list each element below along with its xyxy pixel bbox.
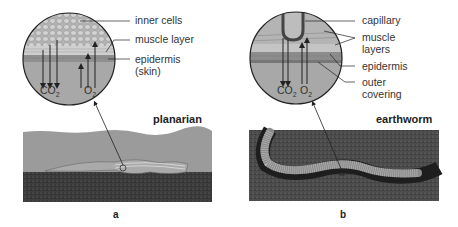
label-o2: O2: [300, 85, 312, 100]
epidermis-layer: [20, 55, 120, 62]
planarian-magnified-view: [20, 10, 130, 110]
label-epidermis: epidermis: [135, 54, 181, 65]
panel-letter-b: b: [340, 209, 346, 220]
co2-subscript: 2: [293, 91, 297, 98]
co2-subscript: 2: [56, 91, 60, 98]
label-outer: outer: [362, 77, 386, 88]
outer-covering: [248, 60, 348, 63]
inner-cells-layer: [20, 10, 120, 48]
muscle-layer: [20, 46, 120, 55]
soil: [23, 172, 212, 202]
panel-letter-a: a: [113, 209, 119, 220]
o2-subscript: 2: [308, 91, 312, 98]
capillary: [283, 10, 303, 40]
label-inner-cells: inner cells: [135, 15, 182, 26]
label-co2: CO2: [40, 85, 60, 100]
label-muscle-layer: muscle layer: [135, 34, 194, 45]
label-layers: layers: [362, 44, 390, 55]
organism-title-earthworm: earthworm: [376, 113, 432, 125]
o2-text: O: [84, 84, 92, 96]
label-covering: covering: [362, 89, 402, 100]
label-skin: (skin): [135, 66, 161, 77]
o2-subscript: 2: [92, 91, 96, 98]
label-muscle: muscle: [362, 32, 395, 43]
label-epidermis: epidermis: [362, 61, 408, 72]
label-capillary: capillary: [362, 15, 401, 26]
organism-title-planarian: planarian: [153, 113, 202, 125]
o2-text: O: [300, 84, 308, 96]
co2-text: CO: [277, 84, 293, 96]
co2-text: CO: [40, 84, 56, 96]
label-co2: CO2: [277, 85, 297, 100]
label-o2: O2: [84, 85, 96, 100]
